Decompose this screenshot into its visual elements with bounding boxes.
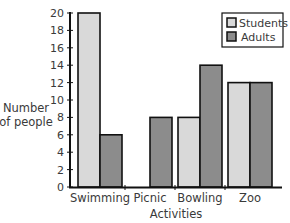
bar-adults-zoo (250, 83, 272, 187)
bar-students-bowling (178, 117, 200, 187)
x-category-label: Zoo (239, 191, 261, 205)
y-tick-label: 14 (50, 59, 64, 72)
y-axis-label-line2: of people (0, 115, 53, 129)
legend-swatch-students (227, 18, 236, 27)
y-tick-label: 8 (57, 111, 64, 124)
y-tick-label: 10 (50, 94, 64, 107)
y-tick-label: 4 (57, 146, 64, 159)
x-axis-label: Activities (150, 207, 202, 221)
x-category-label: Picnic (133, 191, 166, 205)
y-tick-label: 20 (50, 7, 64, 20)
bar-adults-swimming (100, 135, 122, 187)
x-category-label: Bowling (177, 191, 222, 205)
y-tick-label: 12 (50, 77, 64, 90)
y-axis-label-line1: Number (3, 101, 49, 115)
bar-adults-bowling (200, 65, 222, 187)
bar-students-zoo (228, 83, 250, 187)
legend-label-students: Students (239, 17, 288, 30)
y-tick-label: 18 (50, 24, 64, 37)
bar-students-swimming (78, 13, 100, 187)
legend-label-adults: Adults (241, 31, 276, 44)
y-tick-label: 2 (57, 164, 64, 177)
legend-swatch-adults (227, 32, 236, 41)
x-category-label: Swimming (70, 191, 130, 205)
legend: Students Adults (222, 13, 288, 47)
y-tick-label: 16 (50, 42, 64, 55)
y-tick-label: 0 (57, 181, 64, 194)
bar-chart: 02468101214161820 SwimmingPicnicBowlingZ… (0, 0, 290, 223)
y-tick-label: 6 (57, 129, 64, 142)
bar-adults-picnic (150, 117, 172, 187)
